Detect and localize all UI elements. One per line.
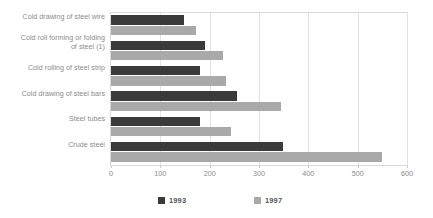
x-tick-label: 0 [109, 169, 113, 178]
bar-group [111, 114, 407, 139]
x-tick-label: 600 [401, 169, 413, 178]
x-tick-label: 500 [352, 169, 364, 178]
bar-group [111, 38, 407, 63]
x-tick-mark [111, 166, 112, 168]
category-label-line: Steel tubes [69, 115, 105, 123]
legend-swatch-icon [158, 197, 165, 204]
legend: 1993 1997 [0, 196, 433, 212]
legend-item-1993[interactable]: 1993 [158, 196, 186, 205]
bar-rows [111, 13, 407, 165]
plot-area [110, 12, 408, 166]
bar-group [111, 140, 407, 165]
x-tick-mark [160, 166, 161, 168]
bar-1993[interactable] [111, 15, 184, 25]
bar-group [111, 64, 407, 89]
legend-swatch-icon [254, 197, 261, 204]
x-tick-mark [407, 166, 408, 168]
bar-1993[interactable] [111, 91, 237, 101]
category-label-crude-steel: Crude steel [0, 141, 105, 150]
bar-group [111, 89, 407, 114]
category-label-line: Cold drawing of steel bars [22, 90, 105, 98]
category-label-cold-roll-forming-or-folding-of-steel: Cold roll forming or folding of steel (1… [0, 34, 105, 51]
category-label-cold-drawing-of-steel-wire: Cold drawing of steel wire [0, 13, 105, 22]
bar-group [111, 13, 407, 38]
category-label-line: of steel (1) [0, 43, 105, 52]
x-tick-label: 400 [302, 169, 314, 178]
category-axis-labels: Cold drawing of steel wire Cold roll for… [0, 12, 108, 166]
bar-chart: Cold drawing of steel wire Cold roll for… [0, 0, 433, 218]
bar-1997[interactable] [111, 152, 382, 162]
gridline [407, 13, 408, 165]
bar-1993[interactable] [111, 117, 200, 127]
bar-1997[interactable] [111, 76, 226, 86]
legend-item-1997[interactable]: 1997 [254, 196, 282, 205]
category-label-line: Cold drawing of steel wire [22, 13, 105, 21]
bar-1997[interactable] [111, 102, 281, 112]
legend-label: 1993 [169, 196, 186, 205]
bar-1997[interactable] [111, 26, 196, 36]
x-tick-label: 100 [154, 169, 166, 178]
bar-1997[interactable] [111, 51, 223, 61]
x-tick-mark [308, 166, 309, 168]
category-label-line: Crude steel [68, 141, 105, 149]
category-label-steel-tubes: Steel tubes [0, 115, 105, 124]
x-tick-mark [259, 166, 260, 168]
bar-1993[interactable] [111, 66, 200, 76]
x-tick-label: 300 [253, 169, 265, 178]
category-label-line: Cold roll forming or folding [0, 34, 105, 43]
category-label-line: Cold rolling of steel strip [28, 64, 105, 72]
bar-1997[interactable] [111, 127, 231, 137]
x-tick-mark [210, 166, 211, 168]
legend-label: 1997 [265, 196, 282, 205]
bar-1993[interactable] [111, 41, 205, 51]
x-axis: 0100200300400500600 [110, 166, 408, 182]
x-tick-mark [358, 166, 359, 168]
x-tick-label: 200 [204, 169, 216, 178]
category-label-cold-drawing-of-steel-bars: Cold drawing of steel bars [0, 90, 105, 99]
category-label-cold-rolling-of-steel-strip: Cold rolling of steel strip [0, 64, 105, 73]
bar-1993[interactable] [111, 142, 283, 152]
